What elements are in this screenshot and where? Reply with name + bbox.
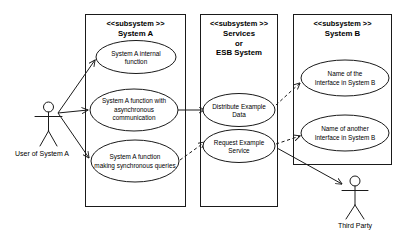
actor-left-leg-line <box>40 131 49 146</box>
use-case-label-line1: System A function <box>110 153 161 161</box>
subsystem-stereotype-system-b: <<subsystem >> <box>314 19 373 28</box>
actor-third-party[interactable]: Third Party <box>338 176 373 230</box>
use-case-request-example-service[interactable]: Request Example Service <box>203 130 275 163</box>
actor-right-leg-line <box>49 131 58 146</box>
actor-head-icon <box>350 176 360 186</box>
subsystem-title-services-line2: or <box>235 39 243 48</box>
use-case-label-line2: function <box>125 58 148 65</box>
use-case-label-line1: System A function with <box>102 97 166 105</box>
subsystem-title-services-line3: ESB System <box>216 48 262 57</box>
use-case-label-line1: Distribute Example <box>212 103 266 111</box>
connector-user-to-async-function[interactable] <box>58 110 88 113</box>
use-case-system-a-async-communication[interactable]: System A function with asynchronous comm… <box>90 89 178 131</box>
use-case-label-line3: communication <box>113 114 156 121</box>
use-case-label-line2: making synchronous queries <box>94 162 175 170</box>
subsystem-title-services-line1: Services <box>223 29 256 38</box>
use-case-label-line2: Interface in System B <box>315 134 376 142</box>
use-case-name-of-the-interface-system-b[interactable]: Name of the Interface in System B <box>301 60 389 96</box>
subsystem-stereotype-services-esb: <<subsystem >> <box>210 19 269 28</box>
use-case-system-a-internal-function[interactable]: System A internal function <box>96 41 176 74</box>
actor-right-leg-line <box>355 205 364 219</box>
use-case-label-line2: asynchronous <box>114 106 154 114</box>
use-case-label-line1: System A internal <box>111 50 160 58</box>
subsystem-title-system-b: System B <box>325 29 361 38</box>
actor-left-leg-line <box>346 205 355 219</box>
use-case-name-of-another-interface-system-b[interactable]: Name of another Interface in System B <box>301 115 389 151</box>
actor-user-of-system-a[interactable]: User of System A <box>15 102 69 158</box>
actor-label-user-of-system-a: User of System A <box>15 150 69 158</box>
actor-head-icon <box>44 102 54 112</box>
use-case-label-line2: Data <box>232 111 246 118</box>
subsystem-title-system-a: System A <box>118 29 154 38</box>
use-case-system-a-synchronous-queries[interactable]: System A function making synchronous que… <box>91 140 179 182</box>
diagram-canvas: <<subsystem >> System A <<subsystem >> S… <box>0 0 411 231</box>
use-case-label-line2: Service <box>228 147 250 154</box>
use-case-distribute-example-data[interactable]: Distribute Example Data <box>203 94 275 127</box>
use-case-label-line1: Name of another <box>321 125 369 132</box>
use-case-label-line1: Request Example <box>214 139 265 147</box>
use-case-label-line1: Name of the <box>328 70 363 77</box>
subsystem-stereotype-system-a: <<subsystem >> <box>107 19 166 28</box>
use-case-label-line2: Interface in System B <box>315 79 376 87</box>
actor-label-third-party: Third Party <box>338 222 373 230</box>
use-case-diagram: <<subsystem >> System A <<subsystem >> S… <box>0 0 411 231</box>
